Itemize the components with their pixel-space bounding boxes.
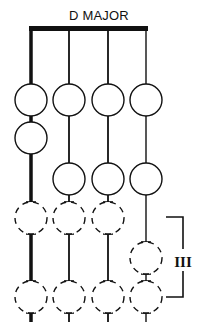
alt-dot-s4-r6 xyxy=(130,281,162,313)
chord-diagram: D MAJOR xyxy=(0,0,198,325)
alt-dot-s1-r6 xyxy=(15,281,47,313)
finger-dot-s1-r1 xyxy=(15,84,47,116)
position-label: III xyxy=(174,254,192,270)
alt-dot-s3-r4 xyxy=(92,202,124,234)
finger-dot-s3-r1 xyxy=(92,84,124,116)
finger-dot-s2-r3 xyxy=(53,163,85,195)
finger-dot-s4-r1 xyxy=(130,84,162,116)
alt-dot-s3-r6 xyxy=(92,281,124,313)
alt-dot-s1-r4 xyxy=(15,202,47,234)
finger-dot-s1-r2 xyxy=(15,122,47,154)
alt-dot-s2-r4 xyxy=(53,202,85,234)
finger-dot-s3-r3 xyxy=(92,163,124,195)
finger-dot-s4-r3 xyxy=(130,163,162,195)
alt-dot-s2-r6 xyxy=(53,281,85,313)
alt-dot-s4-r5 xyxy=(130,242,162,274)
nut-bar xyxy=(29,26,148,31)
finger-dot-s2-r1 xyxy=(53,84,85,116)
chord-title: D MAJOR xyxy=(69,8,129,23)
